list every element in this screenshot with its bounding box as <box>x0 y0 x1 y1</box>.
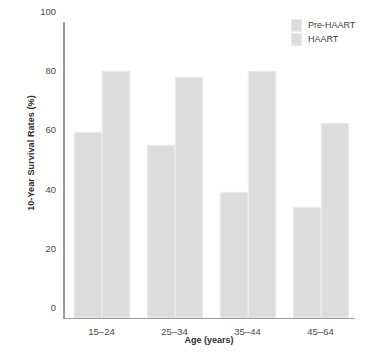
bar-group <box>147 22 203 318</box>
bar-haart <box>321 123 349 318</box>
bar-pre-haart <box>74 132 102 318</box>
legend-swatch-icon <box>291 19 302 32</box>
bar-haart <box>248 71 276 318</box>
y-tick-label: 20 <box>45 242 56 253</box>
y-tick-label: 40 <box>45 183 56 194</box>
y-tick-label: 0 <box>51 302 56 313</box>
legend-label: Pre-HAART <box>308 20 355 30</box>
y-axis-line <box>63 22 65 318</box>
y-tick-label: 100 <box>40 6 56 17</box>
y-tick-label: 80 <box>45 65 56 76</box>
chart-legend: Pre-HAART HAART <box>291 18 355 46</box>
bar-group <box>220 22 276 318</box>
x-axis-title: Age (years) <box>63 335 355 345</box>
bar-group <box>74 22 130 318</box>
legend-label: HAART <box>308 34 338 44</box>
plot-area: 020406080100 15–2425–3435–4445–64 <box>63 22 355 318</box>
legend-swatch-icon <box>291 33 302 46</box>
bar-pre-haart <box>293 207 321 318</box>
bar-pre-haart <box>220 192 248 318</box>
bar-pre-haart <box>147 145 175 318</box>
y-axis-title: 10-Year Survival Rates (%) <box>26 63 36 243</box>
y-tick-label: 60 <box>45 124 56 135</box>
bar-group <box>293 22 349 318</box>
bar-haart <box>102 71 130 318</box>
bar-chart: 10-Year Survival Rates (%) 020406080100 … <box>0 0 369 357</box>
legend-item-pre-haart: Pre-HAART <box>291 18 355 32</box>
bar-haart <box>175 77 203 318</box>
legend-item-haart: HAART <box>291 32 355 46</box>
